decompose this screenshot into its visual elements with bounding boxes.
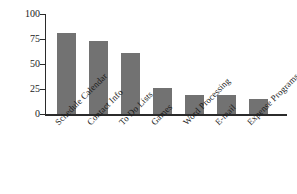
y-tick-label: 0	[14, 109, 40, 119]
bar	[249, 99, 268, 114]
y-tick-label: 75	[14, 34, 40, 44]
bar	[153, 88, 172, 114]
y-tick-label: 25	[14, 84, 40, 94]
bar	[217, 95, 236, 114]
bar	[89, 41, 108, 114]
bar-chart: % Positive Responses 0255075100 Schedule…	[0, 0, 297, 194]
bar	[57, 33, 76, 114]
bar	[185, 95, 204, 114]
y-tick-label: 100	[14, 9, 40, 19]
plot-area	[46, 14, 287, 114]
y-tick-label: 50	[14, 59, 40, 69]
x-axis-line	[45, 114, 287, 116]
bar	[121, 53, 140, 114]
